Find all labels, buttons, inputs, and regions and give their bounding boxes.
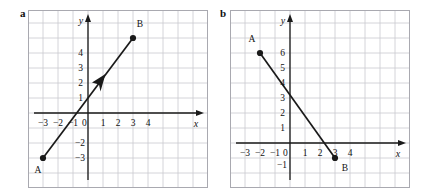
x-tick-label: 4	[348, 148, 353, 158]
x-tick-label: 4	[146, 118, 151, 128]
x-tick-labels: −3 −2 −1 0 1 2 3 4	[38, 118, 151, 128]
y-tick-label: 1	[280, 123, 285, 133]
y-tick-label: −3	[75, 153, 85, 163]
figure-two-coordinate-grids: a	[0, 0, 427, 195]
point-b-marker	[130, 35, 136, 41]
panel-a-letter: a	[20, 8, 26, 19]
panel-a-plot: −3 −2 −1 0 1 2 3 4 4 3 2 1 −2 −3	[28, 10, 208, 188]
x-tick-label: −2	[255, 148, 265, 158]
y-tick-label: 1	[78, 93, 83, 103]
grid-lines	[230, 10, 410, 188]
point-b-label: B	[137, 19, 143, 29]
y-axis-arrowhead	[85, 14, 91, 22]
y-axis-arrowhead	[287, 14, 293, 22]
y-tick-label: 3	[280, 93, 285, 103]
x-tick-label: −3	[240, 148, 250, 158]
y-tick-label: 2	[78, 78, 83, 88]
y-tick-labels: 4 3 2 1 −2 −3	[75, 48, 85, 163]
x-tick-label: −2	[53, 118, 63, 128]
y-tick-label: 4	[78, 48, 83, 58]
x-tick-label: 0	[283, 148, 288, 158]
panel-a-svg: −3 −2 −1 0 1 2 3 4 4 3 2 1 −2 −3	[28, 10, 208, 188]
grid-lines	[28, 10, 208, 188]
y-tick-label: 6	[280, 48, 285, 58]
x-tick-label: 1	[101, 118, 106, 128]
point-a-marker	[257, 50, 263, 56]
y-axis-label: y	[78, 15, 84, 26]
x-axis-label: x	[395, 148, 401, 159]
panel-b-letter: b	[220, 8, 226, 19]
y-tick-label: −1	[277, 160, 287, 170]
panel-b-svg: −3 −2 −1 0 1 2 3 4 6 5 4 3 2 1 −	[230, 10, 410, 188]
x-tick-label: 1	[303, 148, 308, 158]
x-tick-label: −3	[38, 118, 48, 128]
panel-a: a	[0, 0, 213, 195]
x-axis-arrowhead	[398, 140, 406, 146]
panel-b: b	[214, 0, 427, 195]
x-tick-label: 3	[333, 148, 338, 158]
x-tick-label: −1	[68, 118, 78, 128]
point-b-label: B	[342, 163, 348, 173]
x-tick-label: 0	[82, 118, 87, 128]
segment-ab	[260, 53, 335, 158]
axes	[34, 18, 200, 180]
x-tick-label: 2	[116, 118, 121, 128]
y-tick-label: 4	[280, 78, 285, 88]
y-tick-label: 5	[280, 63, 285, 73]
y-axis-label: y	[280, 15, 286, 26]
y-tick-label: −2	[75, 138, 85, 148]
point-a-label: A	[35, 165, 42, 175]
y-tick-label: 2	[280, 108, 285, 118]
x-tick-labels: −3 −2 −1 0 1 2 3 4	[240, 148, 353, 158]
y-tick-label: 3	[78, 63, 83, 73]
point-a-marker	[40, 155, 46, 161]
x-tick-label: 3	[131, 118, 136, 128]
point-a-label: A	[249, 34, 256, 44]
x-tick-label: 2	[318, 148, 323, 158]
x-axis-arrowhead	[196, 110, 204, 116]
panel-b-plot: −3 −2 −1 0 1 2 3 4 6 5 4 3 2 1 −	[230, 10, 410, 188]
x-tick-label: −1	[270, 148, 280, 158]
x-axis-label: x	[193, 118, 199, 129]
